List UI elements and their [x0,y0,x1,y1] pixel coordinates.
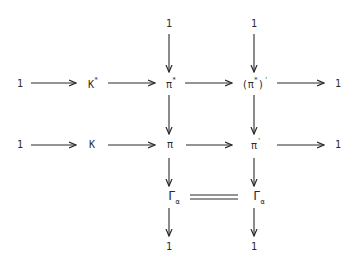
node-row1-left-1: 1 [17,79,23,89]
pi-star-prime-open: (π [242,79,254,90]
pi-prime-superscript: ' [257,137,261,145]
gamma-left-subscript: α [176,198,180,206]
node-top-1-left: 1 [166,19,172,29]
commutative-diagram: 1 1 1 K* π* (π*)' 1 1 K π π' 1 Γα Γα 1 1 [0,0,358,266]
node-pi: π [167,140,173,150]
diagram-arrows [0,0,358,266]
node-row2-left-1: 1 [17,140,23,150]
node-pi-prime: π' [251,139,261,150]
gamma-right-subscript: α [261,198,265,206]
node-gamma-alpha-right: Γα [253,190,264,205]
node-k: K [89,140,95,150]
node-pi-star-prime: (π*)' [242,78,269,89]
node-bottom-1-right: 1 [251,242,257,252]
node-pi-star: π* [166,78,176,89]
pi-star-superscript: * [172,76,176,84]
node-k-star: K* [88,78,98,89]
pi-star-prime-star: * [254,76,258,84]
node-gamma-alpha-left: Γα [168,190,179,205]
pi-star-prime-prime: ' [264,76,268,84]
node-row1-right-1: 1 [335,79,341,89]
node-row2-right-1: 1 [335,140,341,150]
k-star-superscript: * [94,76,98,84]
node-bottom-1-left: 1 [166,242,172,252]
node-top-1-right: 1 [251,19,257,29]
